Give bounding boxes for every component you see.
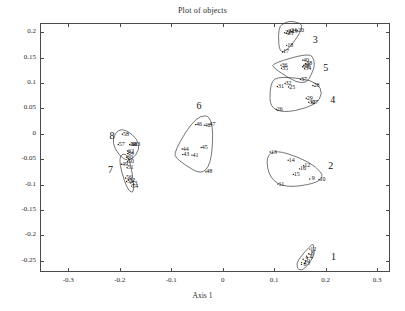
y-tick-mark xyxy=(40,261,44,262)
data-point-label: 10 xyxy=(320,176,326,182)
x-tick-mark xyxy=(223,23,224,27)
x-tick-mark xyxy=(120,23,121,27)
cluster-label: 1 xyxy=(331,251,336,262)
data-point-label: 43 xyxy=(183,151,189,157)
y-tick-label: -0.25 xyxy=(10,256,36,264)
y-tick-mark xyxy=(386,108,390,109)
plot-of-objects-figure: Plot of objects -0.3-0.2-0.100.10.20.30.… xyxy=(0,0,405,311)
x-tick-label: -0.3 xyxy=(53,276,83,284)
cluster-label: 6 xyxy=(197,99,202,110)
cluster-label: 4 xyxy=(330,94,335,105)
chart-title: Plot of objects xyxy=(0,6,405,15)
y-tick-label: -0.2 xyxy=(10,230,36,238)
data-point-label: 41 xyxy=(192,152,198,158)
y-tick-mark xyxy=(386,159,390,160)
x-tick-label: -0.1 xyxy=(156,276,186,284)
x-tick-mark xyxy=(171,268,172,272)
y-tick-label: -0.15 xyxy=(10,205,36,213)
data-point-label: 54 xyxy=(132,183,138,189)
y-tick-mark xyxy=(386,134,390,135)
x-tick-mark xyxy=(171,23,172,27)
y-tick-label: 0 xyxy=(10,129,36,137)
y-tick-mark xyxy=(40,108,44,109)
data-point-label: 24 xyxy=(291,27,297,33)
y-tick-label: 0.05 xyxy=(10,103,36,111)
y-tick-label: 0.1 xyxy=(10,78,36,86)
data-point-label: 6 xyxy=(304,261,307,267)
x-tick-mark xyxy=(120,268,121,272)
x-tick-label: 0.2 xyxy=(311,276,341,284)
data-point-label: 17 xyxy=(283,48,289,54)
y-tick-label: -0.05 xyxy=(10,154,36,162)
y-tick-mark xyxy=(40,58,44,59)
data-point-label: 20 xyxy=(298,27,304,33)
cluster-label: 5 xyxy=(323,62,328,73)
data-point-label: 39 xyxy=(304,62,310,68)
data-point-label: 5 xyxy=(307,260,310,266)
x-tick-label: 0.3 xyxy=(362,276,392,284)
data-point-label: 12 xyxy=(304,162,310,168)
y-tick-mark xyxy=(386,185,390,186)
y-tick-mark xyxy=(40,134,44,135)
y-tick-mark xyxy=(386,32,390,33)
y-tick-mark xyxy=(40,185,44,186)
y-tick-mark xyxy=(386,235,390,236)
cluster-label: 7 xyxy=(108,164,113,175)
data-point-label: 46 xyxy=(196,121,202,127)
data-point-label: 32 xyxy=(286,80,292,86)
data-point-label: 30 xyxy=(309,99,315,105)
data-point-label: 64 xyxy=(128,150,134,156)
x-tick-mark xyxy=(223,268,224,272)
data-point-label: 36 xyxy=(281,62,287,68)
data-point-label: 58 xyxy=(123,131,129,137)
data-point-label: 47 xyxy=(209,121,215,127)
x-tick-mark xyxy=(377,268,378,272)
data-point-label: 26 xyxy=(277,106,283,112)
data-point-label: 40 xyxy=(303,57,309,63)
x-tick-mark xyxy=(326,23,327,27)
data-point-label: 13 xyxy=(271,149,277,155)
y-tick-label: -0.1 xyxy=(10,180,36,188)
y-tick-mark xyxy=(40,235,44,236)
data-point-label: 11 xyxy=(279,181,285,187)
cluster-label: 2 xyxy=(328,159,333,170)
cluster-label: 8 xyxy=(110,129,115,140)
data-point-label: 31 xyxy=(278,83,284,89)
plot-frame xyxy=(40,23,390,272)
y-tick-label: 0.2 xyxy=(10,27,36,35)
data-point-label: 9 xyxy=(312,175,315,181)
y-tick-mark xyxy=(386,261,390,262)
x-tick-label: 0.1 xyxy=(259,276,289,284)
y-tick-mark xyxy=(40,210,44,211)
cluster-label: 3 xyxy=(313,34,318,45)
x-tick-mark xyxy=(377,23,378,27)
data-point-label: 44 xyxy=(183,146,189,152)
data-point-label: 28 xyxy=(313,82,319,88)
y-tick-mark xyxy=(40,159,44,160)
data-point-label: 45 xyxy=(202,144,208,150)
x-tick-mark xyxy=(68,268,69,272)
y-tick-mark xyxy=(40,83,44,84)
data-point-label: 56 xyxy=(126,174,132,180)
y-tick-label: 0.15 xyxy=(10,53,36,61)
x-tick-mark xyxy=(274,23,275,27)
data-point-label: 48 xyxy=(206,168,212,174)
data-point-label: 57 xyxy=(119,141,125,147)
data-point-label: 51 xyxy=(128,164,134,170)
y-tick-mark xyxy=(386,83,390,84)
data-point-label: 63 xyxy=(134,141,140,147)
data-point-label: 18 xyxy=(287,42,293,48)
x-tick-mark xyxy=(326,268,327,272)
x-tick-mark xyxy=(68,23,69,27)
y-tick-mark xyxy=(40,32,44,33)
y-tick-mark xyxy=(386,58,390,59)
x-axis-title: Axis 1 xyxy=(0,291,405,300)
data-point-label: 37 xyxy=(301,76,307,82)
data-point-label: 15 xyxy=(294,171,300,177)
y-tick-mark xyxy=(386,210,390,211)
data-point-label: 12 xyxy=(310,246,316,252)
x-tick-label: -0.2 xyxy=(105,276,135,284)
x-tick-label: 0 xyxy=(208,276,238,284)
x-tick-mark xyxy=(274,268,275,272)
data-point-label: 14 xyxy=(289,157,295,163)
